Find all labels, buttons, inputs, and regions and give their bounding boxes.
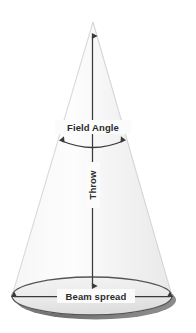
throw-label: Throw xyxy=(87,170,98,200)
beam-spread-label: Beam spread xyxy=(66,291,127,302)
light-cone-diagram: Field Angle Throw Beam spread xyxy=(0,0,196,333)
field-angle-label: Field Angle xyxy=(67,122,119,133)
diagram-canvas: Field Angle Throw Beam spread xyxy=(0,0,196,333)
